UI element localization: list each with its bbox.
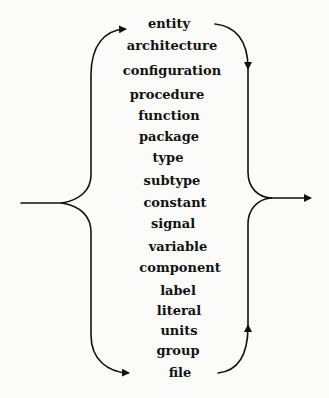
keyword-procedure: procedure bbox=[130, 88, 204, 101]
left-lower-branch bbox=[62, 203, 128, 373]
keyword-constant: constant bbox=[143, 196, 206, 209]
keyword-literal: literal bbox=[157, 304, 201, 317]
syntax-diagram: entity architecture configuration proced… bbox=[0, 0, 329, 398]
keyword-group: group bbox=[156, 344, 199, 357]
keyword-signal: signal bbox=[151, 217, 195, 230]
right-upper-curve bbox=[215, 24, 248, 68]
keyword-file: file bbox=[169, 366, 192, 379]
keyword-units: units bbox=[160, 324, 197, 337]
right-lower-curve bbox=[218, 326, 248, 373]
keyword-entity: entity bbox=[148, 17, 190, 30]
right-lower-vertical bbox=[248, 198, 271, 328]
keyword-subtype: subtype bbox=[144, 174, 201, 187]
keyword-type: type bbox=[153, 151, 184, 164]
keyword-package: package bbox=[139, 130, 199, 143]
keyword-architecture: architecture bbox=[127, 39, 217, 52]
keyword-variable: variable bbox=[149, 240, 208, 253]
keyword-component: component bbox=[139, 261, 220, 274]
keyword-function: function bbox=[138, 109, 199, 122]
right-upper-vertical bbox=[248, 66, 271, 198]
keyword-label: label bbox=[160, 284, 196, 297]
keyword-configuration: configuration bbox=[123, 64, 221, 77]
left-upper-branch bbox=[62, 29, 125, 203]
